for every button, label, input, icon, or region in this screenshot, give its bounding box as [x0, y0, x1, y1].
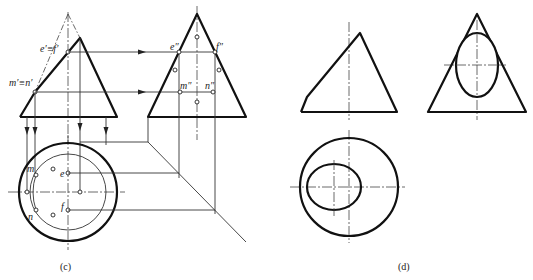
miter-line-45deg [148, 142, 246, 242]
point-side [195, 35, 199, 39]
arrow-right-icon [138, 90, 146, 95]
label-e-top: e [60, 168, 65, 179]
point-top [51, 167, 55, 171]
arrow-down-icon [78, 123, 83, 131]
caption-c: (c) [60, 261, 71, 273]
projection-drawing: e′≡f′ m′≡n′ e″ f″ m″ [0, 0, 533, 280]
label-e-side: e″ [170, 41, 179, 52]
label-m-side: m″ [180, 80, 192, 91]
label-n-side: n″ [205, 80, 215, 91]
label-f-side: f″ [216, 41, 224, 52]
arrow-right-icon [138, 50, 146, 55]
label-f-top: f [61, 201, 65, 212]
label-ef-front: e′≡f′ [40, 43, 59, 54]
point-top [51, 213, 55, 217]
arrow-down-icon [33, 127, 38, 135]
top-view: m n e f [8, 135, 125, 250]
label-n-top: n [28, 211, 33, 222]
phantom-right-generator [68, 14, 80, 38]
caption-d: (d) [398, 261, 410, 273]
point-side [217, 68, 221, 72]
label-mn-front: m′≡n′ [9, 77, 33, 88]
top-section-arc [33, 175, 36, 210]
point-side [195, 100, 199, 104]
figure-d: (d) [290, 14, 526, 273]
point-side [173, 68, 177, 72]
point-top [78, 190, 82, 194]
point-n-top [34, 208, 38, 212]
arrow-down-icon [104, 127, 109, 135]
arrow-down-icon [25, 127, 30, 135]
point-m-top [34, 173, 38, 177]
label-m-top: m [27, 163, 34, 174]
figure-c: e′≡f′ m′≡n′ e″ f″ m″ [8, 6, 246, 273]
front-view: e′≡f′ m′≡n′ [9, 12, 117, 142]
side-view: e″ f″ m″ n″ [148, 6, 246, 214]
point-top [25, 190, 29, 194]
